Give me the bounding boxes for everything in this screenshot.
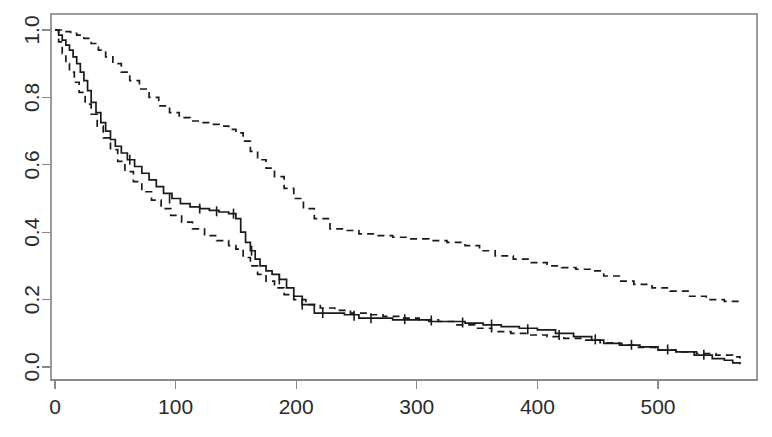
x-tick-label-100: 100: [158, 395, 193, 418]
y-tick-label-0.0: 0.0: [20, 352, 43, 381]
series-survival-estimate: [55, 30, 740, 364]
x-tick-label-0: 0: [49, 395, 61, 418]
series-lower-confidence-limit: [55, 30, 740, 359]
survival-series-group: [55, 30, 740, 364]
censoring-marks-group: [130, 155, 704, 360]
x-tick-label-300: 300: [399, 395, 434, 418]
x-axis-tick-labels: 0100200300400500: [49, 395, 675, 418]
y-tick-label-0.6: 0.6: [20, 150, 43, 179]
y-tick-label-0.2: 0.2: [20, 285, 43, 314]
x-tick-label-500: 500: [640, 395, 675, 418]
y-tick-label-0.8: 0.8: [20, 83, 43, 112]
x-tick-label-400: 400: [520, 395, 555, 418]
x-axis-ticks: [55, 380, 658, 389]
x-tick-label-200: 200: [279, 395, 314, 418]
y-axis-ticks: [42, 30, 51, 367]
y-axis-tick-labels: 0.00.20.40.60.81.0: [20, 15, 43, 381]
survival-plot-svg: 0100200300400500 0.00.20.40.60.81.0: [0, 0, 772, 437]
kaplan-meier-chart: 0100200300400500 0.00.20.40.60.81.0: [0, 0, 772, 437]
plot-frame: [51, 14, 757, 380]
y-tick-label-1.0: 1.0: [20, 15, 43, 44]
series-upper-confidence-limit: [55, 30, 740, 303]
y-tick-label-0.4: 0.4: [20, 217, 43, 247]
